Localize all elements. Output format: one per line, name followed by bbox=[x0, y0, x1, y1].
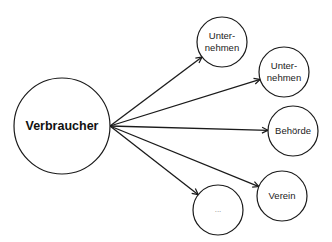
arrow-edge bbox=[110, 57, 202, 126]
node-label: Unter- nehmen bbox=[267, 60, 301, 84]
node-label: ... bbox=[215, 204, 222, 216]
arrow-edge bbox=[110, 79, 260, 126]
arrow-edge bbox=[110, 126, 259, 187]
arrow-edge bbox=[110, 126, 268, 130]
node-label-verbraucher: Verbraucher bbox=[26, 120, 99, 132]
arrow-edge bbox=[110, 126, 198, 195]
edges bbox=[110, 57, 268, 195]
node-label: Behörde bbox=[275, 125, 311, 137]
node-label: Verein bbox=[269, 190, 296, 202]
node-label: Unter- nehmen bbox=[205, 30, 239, 54]
